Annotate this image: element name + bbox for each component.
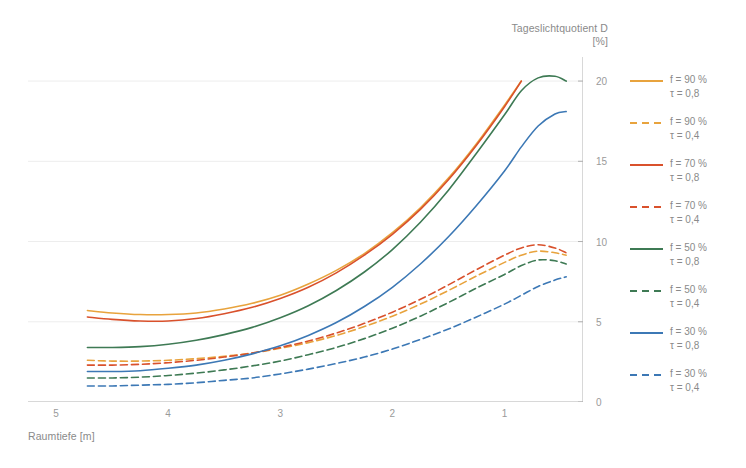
legend-label: f = 90 %τ = 0,4 (670, 115, 707, 143)
legend-label-f: f = 50 % (670, 284, 707, 295)
legend-label: f = 30 %τ = 0,8 (670, 325, 707, 353)
legend-swatch (630, 332, 663, 334)
legend-label: f = 70 %τ = 0,4 (670, 199, 707, 227)
legend-label-tau: τ = 0,4 (670, 297, 707, 311)
chart-page: Tageslichtquotient D [%] 54321 05101520 … (0, 0, 746, 468)
legend-label: f = 50 %τ = 0,4 (670, 283, 707, 311)
legend-label-tau: τ = 0,4 (670, 213, 707, 227)
legend-swatch (630, 122, 663, 124)
chart-legend: f = 90 %τ = 0,8f = 90 %τ = 0,4f = 70 %τ … (630, 62, 742, 398)
legend-swatch (630, 164, 663, 166)
legend-item[interactable]: f = 30 %τ = 0,4 (630, 356, 742, 398)
legend-label-f: f = 90 % (670, 116, 707, 127)
x-tick-label: 5 (53, 408, 59, 419)
legend-label-tau: τ = 0,8 (670, 171, 707, 185)
series-line (87, 245, 566, 365)
legend-item[interactable]: f = 70 %τ = 0,8 (630, 146, 742, 188)
series-line (87, 76, 566, 348)
legend-label: f = 30 %τ = 0,4 (670, 367, 707, 395)
legend-label-tau: τ = 0,4 (670, 129, 707, 143)
legend-item[interactable]: f = 90 %τ = 0,8 (630, 62, 742, 104)
legend-item[interactable]: f = 90 %τ = 0,4 (630, 104, 742, 146)
chart-svg (28, 57, 583, 402)
legend-swatch (630, 80, 663, 82)
series-line (87, 81, 521, 315)
legend-label-tau: τ = 0,4 (670, 381, 707, 395)
y-tick-label: 20 (596, 76, 607, 87)
legend-swatch (630, 206, 663, 208)
x-tick-label: 4 (165, 408, 171, 419)
legend-label-f: f = 70 % (670, 200, 707, 211)
legend-label: f = 50 %τ = 0,8 (670, 241, 707, 269)
legend-label-f: f = 30 % (670, 368, 707, 379)
legend-label-f: f = 90 % (670, 74, 707, 85)
legend-label-tau: τ = 0,8 (670, 87, 707, 101)
legend-label-tau: τ = 0,8 (670, 255, 707, 269)
x-tick-label: 1 (502, 408, 508, 419)
y-axis-unit: [%] (503, 35, 608, 48)
legend-item[interactable]: f = 70 %τ = 0,4 (630, 188, 742, 230)
y-tick-label: 10 (596, 236, 607, 247)
legend-label: f = 70 %τ = 0,8 (670, 157, 707, 185)
plot-area (28, 57, 583, 402)
legend-label-f: f = 70 % (670, 158, 707, 169)
legend-item[interactable]: f = 30 %τ = 0,8 (630, 314, 742, 356)
legend-swatch (630, 248, 663, 250)
y-tick-label: 0 (596, 397, 602, 408)
legend-item[interactable]: f = 50 %τ = 0,8 (630, 230, 742, 272)
legend-item[interactable]: f = 50 %τ = 0,4 (630, 272, 742, 314)
legend-label-f: f = 30 % (670, 326, 707, 337)
legend-label: f = 90 %τ = 0,8 (670, 73, 707, 101)
legend-swatch (630, 290, 663, 292)
y-tick-label: 5 (596, 316, 602, 327)
y-axis-title-text: Tageslichtquotient D (511, 22, 608, 34)
x-axis-title: Raumtiefe [m] (28, 430, 95, 443)
x-tick-label: 2 (390, 408, 396, 419)
y-axis-title: Tageslichtquotient D [%] (503, 22, 608, 48)
legend-swatch (630, 374, 663, 376)
x-tick-label: 3 (277, 408, 283, 419)
legend-label-tau: τ = 0,8 (670, 339, 707, 353)
legend-label-f: f = 50 % (670, 242, 707, 253)
y-tick-label: 15 (596, 156, 607, 167)
